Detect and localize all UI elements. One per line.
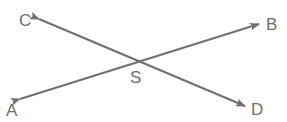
line-cd xyxy=(39,19,245,106)
point-label-c: C xyxy=(19,12,31,29)
point-label-a: A xyxy=(6,102,17,119)
point-label-b: B xyxy=(266,16,277,33)
point-label-s: S xyxy=(130,69,141,86)
intersecting-lines-diagram xyxy=(0,0,287,122)
point-label-d: D xyxy=(251,101,263,118)
